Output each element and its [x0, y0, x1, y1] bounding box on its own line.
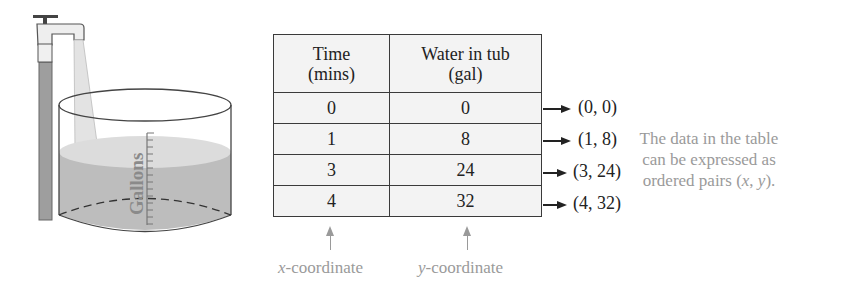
cell-time: 1	[274, 124, 390, 155]
arrow-right-icon	[543, 140, 563, 142]
ordered-pairs-note: The data in the table can be expressed a…	[629, 128, 789, 191]
arrowhead-icon	[557, 169, 567, 177]
cell-water: 8	[390, 124, 542, 155]
arrow-up-shaft	[330, 234, 332, 250]
table-row: 0 0	[274, 93, 542, 124]
arrowhead-icon	[561, 105, 571, 113]
arrowhead-icon	[557, 201, 567, 209]
table-row: 1 8	[274, 124, 542, 155]
ordered-pair: (3, 24)	[573, 161, 621, 182]
cell-water: 32	[390, 186, 542, 217]
table-row: 3 24	[274, 155, 542, 186]
cell-time: 4	[274, 186, 390, 217]
cell-water: 0	[390, 93, 542, 124]
ordered-pair: (0, 0)	[578, 97, 617, 118]
arrow-right-icon	[543, 108, 563, 110]
cell-water: 24	[390, 155, 542, 186]
ordered-pair: (1, 8)	[578, 129, 617, 150]
time-water-table: Time (mins) Water in tub (gal) 0 0 1 8 3…	[273, 34, 542, 217]
header-water: Water in tub (gal)	[390, 35, 542, 93]
pipe-icon	[39, 62, 52, 220]
ordered-pair: (4, 32)	[573, 193, 621, 214]
faucet-tub-illustration: Gallons	[0, 0, 240, 292]
cell-time: 3	[274, 155, 390, 186]
arrowhead-icon	[561, 137, 571, 145]
cell-time: 0	[274, 93, 390, 124]
x-coordinate-label: x-coordinate	[278, 258, 363, 278]
arrow-up-shaft	[467, 234, 469, 250]
header-time: Time (mins)	[274, 35, 390, 93]
table-row: 4 32	[274, 186, 542, 217]
gallons-label: Gallons	[126, 153, 147, 215]
y-coordinate-label: y-coordinate	[418, 258, 503, 278]
table-header-row: Time (mins) Water in tub (gal)	[274, 35, 542, 93]
